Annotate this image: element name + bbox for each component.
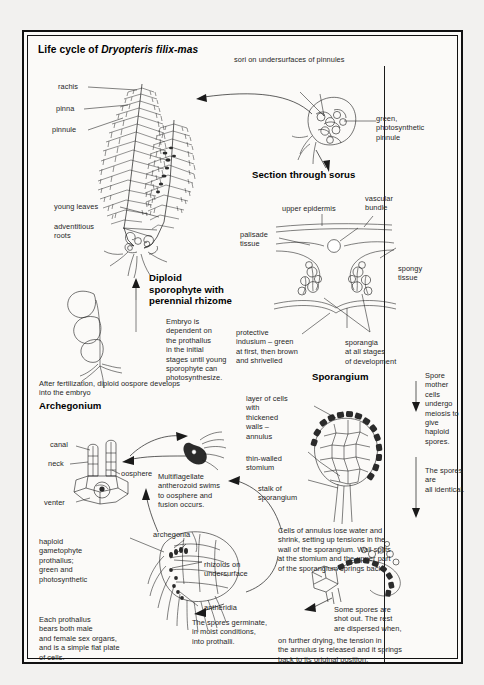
heading-diploid-sporophyte: Diploid sporophyte with perennial rhizom…	[149, 272, 232, 307]
label-haploid-gametophyte: haploid gametophyte prothallus; green an…	[39, 537, 87, 584]
label-annulus: layer of cells with thickened walls – an…	[246, 394, 288, 441]
sorus-cross-section-illustration	[274, 214, 396, 334]
heading-section-through-sorus: Section through sorus	[252, 169, 355, 181]
sporangium-illustration	[308, 406, 383, 524]
label-oosphere: oosphere	[121, 469, 152, 478]
label-protective-indusium: protective indusium – green at first, th…	[236, 328, 298, 366]
label-canal: canal	[50, 440, 68, 449]
arrow-frond-to-pinnule	[196, 94, 312, 114]
text-some-spores-shot-out: Some spores are shot out. The rest are d…	[334, 605, 402, 633]
label-young-leaves: young leaves	[54, 202, 98, 211]
label-green-photosynthetic-pinnule: green, photosynthetic pinnule	[376, 114, 424, 142]
label-rachis: rachis	[58, 82, 78, 91]
prothallus-illustration	[130, 532, 239, 632]
young-sporophyte-illustration	[68, 278, 140, 388]
text-on-further-drying: on further drying, the tension in the an…	[278, 636, 402, 664]
diagram-canvas: Life cycle of Dryopteris filix-mas	[24, 32, 465, 666]
label-stalk-of-sporangium: stalk of sporangium	[258, 484, 297, 503]
label-venter: venter	[44, 498, 65, 507]
label-upper-epidermis: upper epidermis	[282, 204, 336, 213]
sporangium-flow-arrows	[412, 381, 420, 518]
label-antheridia: antheridia	[204, 603, 237, 612]
label-spore-mother-cells: Spore mother cells undergo meiosis to gi…	[425, 371, 465, 446]
label-rhizoids-undersurface: rhizoids on undersurface	[204, 560, 248, 579]
fern-frond-illustration	[98, 84, 195, 278]
label-archegonia: archegonia	[153, 530, 190, 539]
label-palisade-tissue: palisade tissue	[240, 230, 268, 249]
heading-archegonium: Archegonium	[39, 400, 101, 412]
label-pinnule: pinnule	[52, 125, 76, 134]
text-multiflagellate-antherozoid: Multiflagellate antherozoid swims to oos…	[158, 472, 220, 510]
archegonium-illustration	[70, 440, 128, 504]
label-spores-identical: The spores are all identical.	[425, 466, 465, 494]
text-cells-annulus-lose-water: Cells of annulus lose water and shrink, …	[278, 526, 391, 573]
text-each-prothallus: Each prothallus bears both male and fema…	[39, 615, 120, 662]
fern-label-leaders	[84, 87, 159, 237]
label-pinna: pinna	[56, 104, 74, 113]
label-thin-walled-stomium: thin-walled stomium	[246, 454, 282, 473]
label-spongy-tissue: spongy tissue	[398, 264, 422, 283]
label-sporangia-stages: sporangia at all stages of development	[345, 338, 396, 366]
label-neck: neck	[48, 459, 64, 468]
antherozoid-illustration	[122, 432, 226, 470]
heading-sporangium: Sporangium	[312, 371, 368, 383]
text-spores-germinate: The spores germinate, in moist condition…	[192, 618, 267, 646]
label-adventitious-roots: adventitious roots	[54, 222, 94, 241]
text-embryo-dependent: Embryo is dependent on the prothallus in…	[166, 317, 226, 383]
diagram-frame: Life cycle of Dryopteris filix-mas	[22, 30, 463, 664]
label-sori-undersurfaces: sori on undersurfaces of pinnules	[234, 55, 345, 64]
text-after-fertilization: After fertilization, diploid oospore dev…	[39, 379, 180, 398]
label-vascular-bundle: vascular bundle	[365, 194, 393, 213]
pinnule-with-sori-illustration	[292, 92, 376, 172]
